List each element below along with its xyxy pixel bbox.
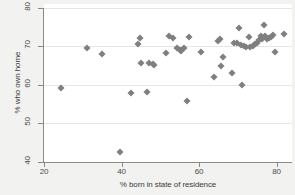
- data-point: [137, 60, 144, 67]
- y-tick: [38, 46, 43, 47]
- data-point: [184, 97, 191, 104]
- data-point: [261, 21, 268, 28]
- data-point: [83, 45, 90, 52]
- gridline-y: [44, 8, 292, 9]
- data-point: [210, 73, 217, 80]
- y-tick-label: 70: [23, 38, 32, 52]
- data-point: [235, 25, 242, 32]
- y-tick-label: 40: [23, 154, 32, 168]
- x-tick-label: 80: [268, 167, 286, 176]
- gridline-y: [44, 85, 292, 86]
- y-tick: [38, 85, 43, 86]
- y-tick-label: 80: [23, 0, 32, 13]
- x-tick-label: 20: [35, 167, 53, 176]
- data-point: [219, 54, 226, 61]
- x-axis-title: % born in state of residence: [44, 180, 292, 189]
- plot-area: [44, 4, 292, 162]
- y-tick-label: 50: [23, 115, 32, 129]
- y-tick-label: 60: [23, 76, 32, 90]
- y-axis-line: [43, 8, 44, 163]
- y-tick: [38, 8, 43, 9]
- x-tick-label: 60: [190, 167, 208, 176]
- gridline-y: [44, 123, 292, 124]
- data-point: [128, 89, 135, 96]
- data-point: [143, 88, 150, 95]
- data-point: [218, 62, 225, 69]
- data-point: [151, 62, 158, 69]
- data-point: [228, 69, 235, 76]
- y-axis-title: % who own home: [13, 28, 22, 138]
- data-point: [99, 50, 106, 57]
- y-tick: [38, 123, 43, 124]
- y-tick: [38, 162, 43, 163]
- x-axis-line: [43, 162, 292, 163]
- data-point: [271, 48, 278, 55]
- data-point: [239, 81, 246, 88]
- data-point: [116, 149, 123, 156]
- data-point: [281, 31, 288, 38]
- x-tick-label: 40: [113, 167, 131, 176]
- data-point: [163, 49, 170, 56]
- data-point: [137, 34, 144, 41]
- data-point: [245, 34, 252, 41]
- data-point: [186, 33, 193, 40]
- scatter-plot-figure: 4050607080 20406080 % who own home % bor…: [0, 0, 295, 195]
- data-point: [169, 35, 176, 42]
- data-point: [197, 48, 204, 55]
